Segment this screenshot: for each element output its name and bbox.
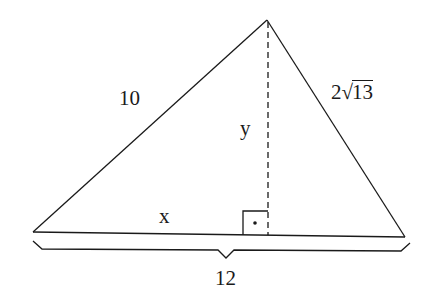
diagram-lines [0,0,433,306]
altitude-label: y [240,118,251,139]
base [33,232,405,237]
right-side [267,20,405,237]
left-side [33,20,267,232]
triangle-diagram: 10 2√13 y x 12 [0,0,433,306]
right-side-coefficient: 2 [331,80,342,104]
left-side-label: 10 [119,88,140,109]
left-segment-label: x [159,206,170,227]
base-brace [33,241,410,258]
right-angle-dot [253,221,257,225]
radicand: 13 [352,80,373,103]
base-label: 12 [215,268,236,289]
right-side-label: 2√13 [331,80,373,103]
